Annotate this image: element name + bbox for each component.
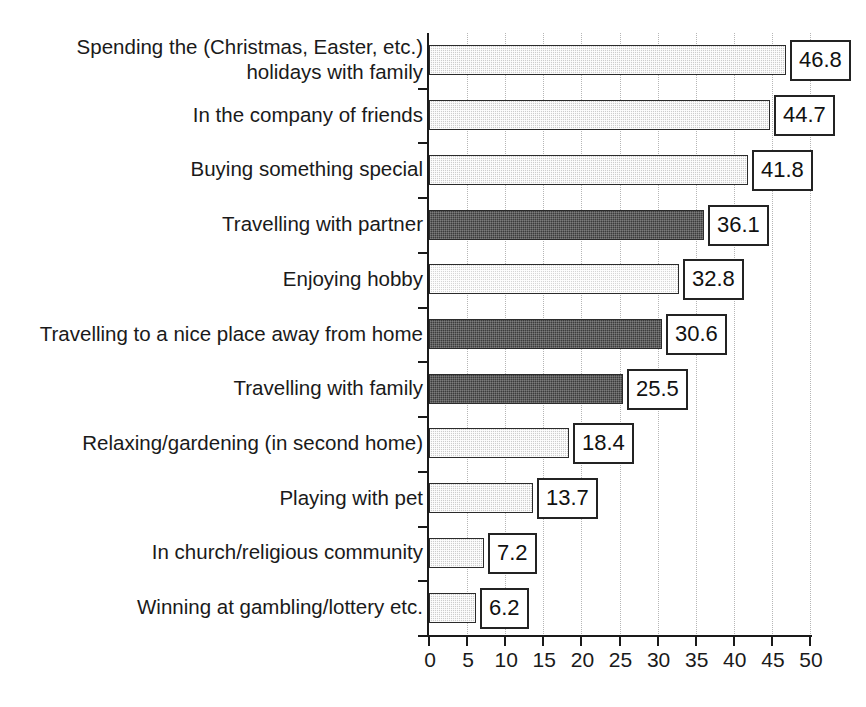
y-tick-1 <box>418 142 428 144</box>
x-tick-40 <box>733 637 735 646</box>
bar[interactable] <box>429 428 569 458</box>
category-label: Playing with pet <box>3 485 423 510</box>
category-label: Spending the (Christmas, Easter, etc.) h… <box>3 34 423 84</box>
x-tick-20 <box>580 637 582 646</box>
x-tick-35 <box>695 637 697 646</box>
bar-value-label: 46.8 <box>790 40 851 81</box>
x-tick-10 <box>504 637 506 646</box>
x-tick-label-25: 25 <box>601 648 641 672</box>
bar[interactable] <box>429 483 533 513</box>
x-tick-label-35: 35 <box>677 648 717 672</box>
y-tick-0 <box>418 88 428 90</box>
bar-value-label: 41.8 <box>752 150 813 191</box>
y-tick-2 <box>418 197 428 199</box>
x-tick-label-50: 50 <box>791 648 831 672</box>
horizontal-bar-chart: Spending the (Christmas, Easter, etc.) h… <box>0 0 866 707</box>
bar-value-label: 30.6 <box>666 314 727 355</box>
x-tick-label-15: 15 <box>524 648 564 672</box>
category-label: Travelling to a nice place away from hom… <box>3 321 423 346</box>
x-tick-label-0: 0 <box>410 648 450 672</box>
x-tick-label-20: 20 <box>562 648 602 672</box>
x-tick-label-45: 45 <box>753 648 793 672</box>
bar[interactable] <box>429 319 662 349</box>
bar[interactable] <box>429 264 679 294</box>
bar-value-label: 13.7 <box>537 478 598 519</box>
x-tick-label-10: 10 <box>486 648 526 672</box>
x-tick-label-40: 40 <box>715 648 755 672</box>
x-tick-label-30: 30 <box>639 648 679 672</box>
y-tick-3 <box>418 252 428 254</box>
bar[interactable] <box>429 210 704 240</box>
y-tick-8 <box>418 526 428 528</box>
y-tick-7 <box>418 471 428 473</box>
x-tick-50 <box>809 637 811 646</box>
category-label: Travelling with partner <box>3 211 423 236</box>
x-tick-45 <box>771 637 773 646</box>
bar[interactable] <box>429 45 786 75</box>
category-label: Relaxing/gardening (in second home) <box>3 430 423 455</box>
x-tick-5 <box>466 637 468 646</box>
bar[interactable] <box>429 538 484 568</box>
y-tick-6 <box>418 416 428 418</box>
category-label: In the company of friends <box>3 102 423 127</box>
x-tick-label-5: 5 <box>448 648 488 672</box>
y-tick-9 <box>418 580 428 582</box>
bar-value-label: 7.2 <box>488 533 537 574</box>
category-label: Winning at gambling/lottery etc. <box>3 594 423 619</box>
bar[interactable] <box>429 374 623 404</box>
category-label: Buying something special <box>3 156 423 181</box>
bar[interactable] <box>429 593 476 623</box>
y-tick-5 <box>418 361 428 363</box>
bar[interactable] <box>429 100 770 130</box>
bar[interactable] <box>429 155 748 185</box>
x-tick-30 <box>657 637 659 646</box>
bar-value-label: 32.8 <box>683 259 744 300</box>
bar-value-label: 6.2 <box>480 588 529 629</box>
bar-value-label: 18.4 <box>573 423 634 464</box>
y-tick-10 <box>418 635 428 637</box>
category-label: Enjoying hobby <box>3 266 423 291</box>
x-tick-0 <box>428 637 430 646</box>
x-tick-25 <box>619 637 621 646</box>
bar-value-label: 36.1 <box>708 205 769 246</box>
category-label: Travelling with family <box>3 375 423 400</box>
bar-value-label: 44.7 <box>774 95 835 136</box>
bar-value-label: 25.5 <box>627 369 688 410</box>
category-label: In church/religious community <box>3 539 423 564</box>
y-tick-4 <box>418 307 428 309</box>
x-tick-15 <box>542 637 544 646</box>
